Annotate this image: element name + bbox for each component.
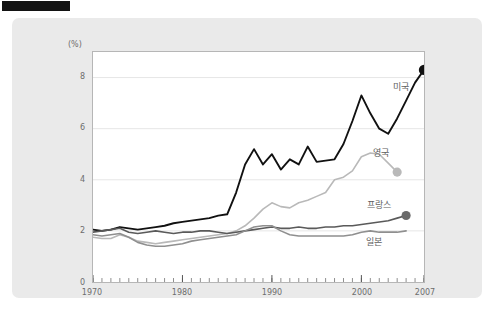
y-tick-label: 0 [63, 279, 85, 287]
series-label-1: 미국 [393, 83, 409, 92]
y-axis-unit-label: (%) [68, 40, 82, 49]
y-tick-label: 2 [63, 227, 85, 235]
header-tab-block [2, 1, 70, 11]
series-label-3: 프랑스 [367, 201, 391, 210]
header-strip [0, 0, 494, 14]
plot-area [92, 51, 425, 283]
header-faint-text [78, 1, 438, 11]
line-chart-svg [93, 52, 424, 282]
x-tick-label: 1980 [162, 289, 202, 297]
figure-panel: (%) 0246819701980199020002007미국영국프랑스일본 [12, 18, 482, 298]
y-tick-label: 4 [63, 176, 85, 184]
series-end-marker-3 [402, 211, 411, 220]
y-tick-label: 6 [63, 124, 85, 132]
series-label-2: 영국 [373, 149, 389, 158]
series-label-4: 일본 [366, 238, 382, 247]
series-end-marker-1 [419, 65, 424, 75]
x-tick-label: 2000 [342, 289, 382, 297]
series-end-marker-2 [393, 168, 402, 177]
x-tick-label: 1970 [72, 289, 112, 297]
x-tick-label: 2007 [405, 289, 445, 297]
x-tick-label: 1990 [252, 289, 292, 297]
y-tick-label: 8 [63, 73, 85, 81]
